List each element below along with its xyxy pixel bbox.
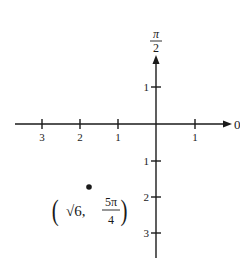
vertical-axis-label-numerator: π	[153, 27, 160, 41]
tick-label-3-down: 3	[144, 227, 150, 239]
polar-diagram: 0 π 2 3 2 1 1 1 1 2 3 ( √6, 5π 4 )	[0, 0, 240, 264]
tick-label-1-right: 1	[192, 131, 198, 143]
plotted-point	[86, 184, 92, 190]
point-theta-denominator: 4	[108, 213, 114, 227]
vertical-axis-label-denominator: 2	[153, 41, 159, 55]
polar-axis-arrow-icon	[223, 121, 232, 128]
tick-label-1-down: 1	[144, 155, 150, 167]
polar-axis-label: 0	[234, 117, 240, 132]
point-r-value: √6,	[66, 203, 85, 219]
tick-label-2-left: 2	[77, 131, 83, 143]
tick-label-1-left: 1	[115, 131, 121, 143]
tick-label-3-left: 3	[39, 131, 45, 143]
close-paren: )	[120, 193, 127, 227]
point-label: ( √6, 5π 4 )	[52, 193, 128, 227]
open-paren: (	[52, 193, 59, 227]
tick-label-2-down: 2	[144, 191, 150, 203]
point-theta-numerator: 5π	[105, 195, 117, 209]
vertical-axis-arrow-icon	[153, 55, 160, 64]
tick-label-1-up: 1	[144, 81, 150, 93]
